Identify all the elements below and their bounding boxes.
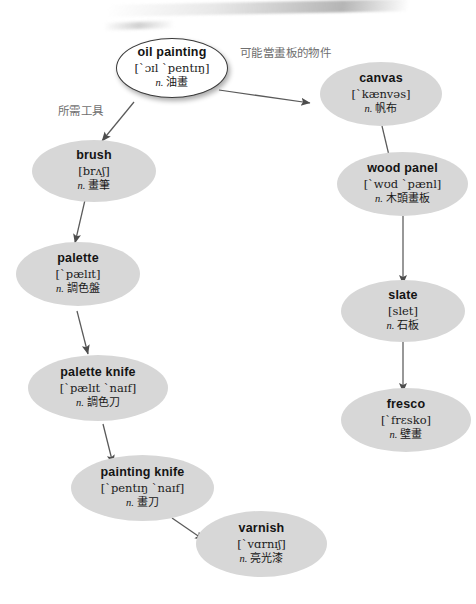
node-word: oil painting bbox=[137, 46, 206, 60]
node-gloss: n. 畫筆 bbox=[78, 179, 111, 192]
node-gloss: n. 油畫 bbox=[156, 76, 189, 89]
node-word: varnish bbox=[239, 522, 285, 536]
node-word: fresco bbox=[387, 398, 426, 412]
node-word: wood panel bbox=[367, 162, 438, 176]
node-word: brush bbox=[76, 149, 112, 163]
node-ipa: [ˋvɑrnɪʃ] bbox=[237, 538, 285, 551]
node-pos: n. bbox=[126, 497, 134, 508]
node-translation: 帆布 bbox=[375, 102, 397, 114]
scan-edge-artifact bbox=[108, 0, 408, 17]
node-pos: n. bbox=[56, 283, 64, 294]
node-slate[interactable]: slate [slet] n. 石板 bbox=[341, 280, 465, 342]
edge-palette-to-palettekniFe bbox=[77, 311, 88, 354]
node-pos: n. bbox=[156, 77, 164, 88]
node-pos: n. bbox=[78, 180, 86, 191]
node-pos: n. bbox=[365, 103, 373, 114]
node-wood-panel[interactable]: wood panel [ˋwʊd ˋpænl] n. 木頭畫板 bbox=[337, 152, 468, 216]
node-pos: n. bbox=[387, 320, 395, 331]
node-gloss: n. 帆布 bbox=[365, 102, 398, 115]
node-ipa: [ˋpælɪt ˋnaɪf] bbox=[60, 382, 136, 395]
node-word: slate bbox=[388, 289, 418, 303]
node-palette-knife[interactable]: palette knife [ˋpælɪt ˋnaɪf] n. 調色刀 bbox=[28, 355, 168, 421]
node-ipa: [ˋwʊd ˋpænl] bbox=[364, 178, 442, 191]
edge-label-surfaces: 可能當畫板的物件 bbox=[240, 44, 331, 60]
node-ipa: [ˋpentɪŋ ˋnaɪf] bbox=[101, 482, 185, 495]
edge-label-tools: 所需工具 bbox=[58, 102, 104, 118]
node-translation: 油畫 bbox=[166, 76, 188, 88]
node-ipa: [ˋfrɛsko] bbox=[381, 414, 431, 427]
node-word: palette knife bbox=[60, 366, 136, 380]
vocabulary-diagram: oil painting [ˋɔɪl ˋpentɪŋ] n. 油畫 canvas… bbox=[0, 0, 476, 604]
node-palette[interactable]: palette [ˋpælɪt] n. 調色盤 bbox=[16, 242, 140, 306]
node-gloss: n. 調色刀 bbox=[76, 396, 120, 409]
node-canvas[interactable]: canvas [ˋkænvəs] n. 帆布 bbox=[320, 62, 442, 126]
node-gloss: n. 木頭畫板 bbox=[375, 192, 430, 205]
node-pos: n. bbox=[375, 193, 383, 204]
edge-oilpainting-to-canvas bbox=[219, 90, 310, 103]
edge-brush-to-palette bbox=[75, 200, 85, 243]
node-translation: 木頭畫板 bbox=[386, 192, 430, 204]
node-translation: 亮光漆 bbox=[250, 552, 283, 564]
node-gloss: n. 壁畫 bbox=[390, 428, 423, 441]
node-word: palette bbox=[57, 252, 99, 266]
node-pos: n. bbox=[76, 397, 84, 408]
node-varnish[interactable]: varnish [ˋvɑrnɪʃ] n. 亮光漆 bbox=[196, 511, 327, 577]
node-gloss: n. 畫刀 bbox=[126, 496, 159, 509]
node-fresco[interactable]: fresco [ˋfrɛsko] n. 壁畫 bbox=[341, 388, 471, 452]
node-pos: n. bbox=[390, 429, 398, 440]
node-gloss: n. 調色盤 bbox=[56, 282, 100, 295]
scan-edge-artifact-secondary bbox=[104, 21, 174, 30]
node-ipa: [brʌʃ] bbox=[78, 165, 109, 178]
node-painting-knife[interactable]: painting knife [ˋpentɪŋ ˋnaɪf] n. 畫刀 bbox=[71, 455, 214, 521]
node-word: painting knife bbox=[100, 466, 184, 480]
node-gloss: n. 石板 bbox=[387, 319, 420, 332]
node-oil-painting[interactable]: oil painting [ˋɔɪl ˋpentɪŋ] n. 油畫 bbox=[116, 38, 228, 98]
node-translation: 壁畫 bbox=[400, 428, 422, 440]
node-word: canvas bbox=[359, 72, 403, 86]
node-translation: 畫筆 bbox=[88, 179, 110, 191]
node-brush[interactable]: brush [brʌʃ] n. 畫筆 bbox=[32, 140, 156, 202]
node-ipa: [ˋpælɪt] bbox=[56, 268, 101, 281]
node-gloss: n. 亮光漆 bbox=[240, 552, 284, 565]
node-pos: n. bbox=[240, 553, 248, 564]
node-translation: 調色盤 bbox=[67, 282, 100, 294]
node-ipa: [slet] bbox=[388, 305, 418, 318]
node-ipa: [ˋkænvəs] bbox=[351, 88, 410, 101]
edge-oilpainting-to-brush bbox=[102, 102, 134, 141]
node-translation: 畫刀 bbox=[137, 496, 159, 508]
node-translation: 石板 bbox=[397, 319, 419, 331]
node-ipa: [ˋɔɪl ˋpentɪŋ] bbox=[134, 62, 209, 75]
node-translation: 調色刀 bbox=[87, 396, 120, 408]
